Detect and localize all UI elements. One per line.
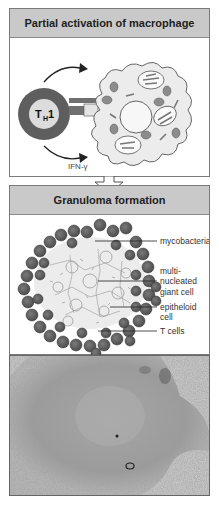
curved-arrow-icon — [44, 146, 80, 159]
panel-granuloma-formation: Granuloma formation — [9, 185, 210, 355]
svg-text:giant cell: giant cell — [160, 287, 194, 297]
panel-macrophage-activation: Partial activation of macrophage T H 1 — [9, 8, 210, 177]
t-cells-label: T cells — [160, 326, 184, 336]
ifn-gamma-label: IFN-γ — [68, 162, 88, 171]
epitheloid-cell-label: epitheloid — [160, 302, 197, 312]
curved-arrow-icon — [44, 67, 80, 82]
th1-cell-icon: T H 1 — [18, 88, 70, 140]
granuloma-diagram: mycobacteria multi- nucleated giant cell… — [10, 215, 209, 355]
macrophage-activation-diagram: T H 1 IFN-γ — [10, 38, 209, 177]
micrograph-image — [10, 356, 209, 495]
svg-text:1: 1 — [48, 108, 54, 120]
mycobacteria-label: mycobacteria — [160, 236, 209, 246]
svg-text:nucleated: nucleated — [160, 276, 197, 286]
svg-text:T: T — [35, 108, 42, 120]
giant-cell-label: multi- — [160, 266, 181, 276]
svg-text:cell: cell — [160, 312, 173, 322]
macrophage-icon — [91, 62, 191, 165]
panel-title: Partial activation of macrophage — [10, 9, 209, 38]
panel-title: Granuloma formation — [10, 186, 209, 215]
granuloma-micrograph — [9, 355, 210, 496]
